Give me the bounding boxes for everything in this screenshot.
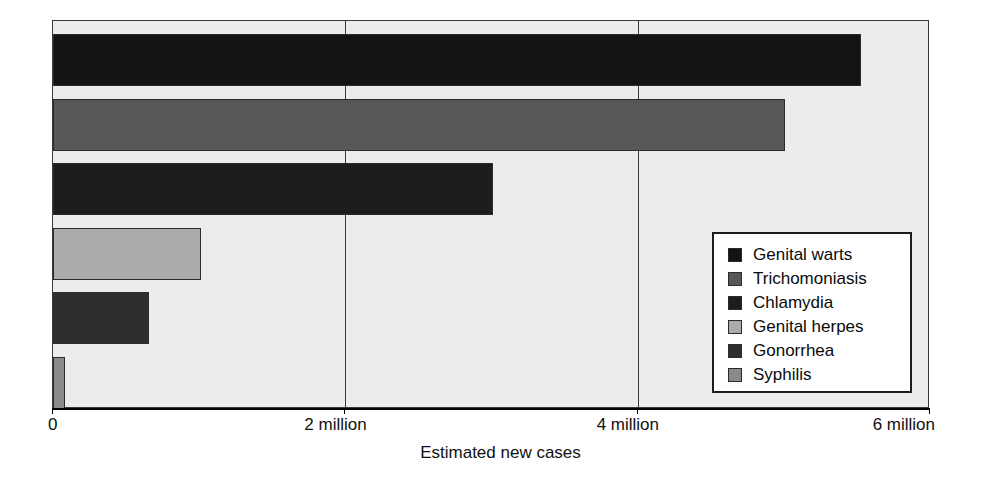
bar-trichomoniasis (53, 99, 785, 151)
legend-swatch-icon (728, 248, 742, 262)
bar-syphilis (53, 357, 65, 409)
legend-label: Genital warts (753, 245, 852, 265)
legend-item-genital-herpes: Genital herpes (728, 315, 910, 339)
legend-swatch-icon (728, 368, 742, 382)
x-axis-line (52, 408, 930, 410)
bar-genital-herpes (53, 228, 201, 280)
x-axis-title: Estimated new cases (0, 443, 1001, 463)
legend-label: Chlamydia (753, 293, 833, 313)
legend-label: Syphilis (753, 365, 812, 385)
chart-legend: Genital wartsTrichomoniasisChlamydiaGeni… (712, 232, 912, 393)
legend-swatch-icon (728, 320, 742, 334)
legend-item-chlamydia: Chlamydia (728, 291, 910, 315)
legend-item-genital-warts: Genital warts (728, 243, 910, 267)
bar-chlamydia (53, 163, 493, 215)
legend-label: Genital herpes (753, 317, 864, 337)
bar-chart-figure: Estimated new cases Genital wartsTrichom… (0, 0, 1001, 500)
bar-genital-warts (53, 34, 861, 86)
legend-swatch-icon (728, 272, 742, 286)
legend-item-trichomoniasis: Trichomoniasis (728, 267, 910, 291)
x-tick-label-1: 2 million (304, 414, 366, 436)
legend-label: Trichomoniasis (753, 269, 867, 289)
legend-item-gonorrhea: Gonorrhea (728, 339, 910, 363)
legend-swatch-icon (728, 296, 742, 310)
bar-gonorrhea (53, 292, 149, 344)
x-tick-label-3: 6 million (873, 414, 935, 436)
legend-label: Gonorrhea (753, 341, 834, 361)
x-tick-label-0: 0 (48, 414, 57, 436)
legend-item-syphilis: Syphilis (728, 363, 910, 387)
legend-swatch-icon (728, 344, 742, 358)
x-tick-label-2: 4 million (597, 414, 659, 436)
